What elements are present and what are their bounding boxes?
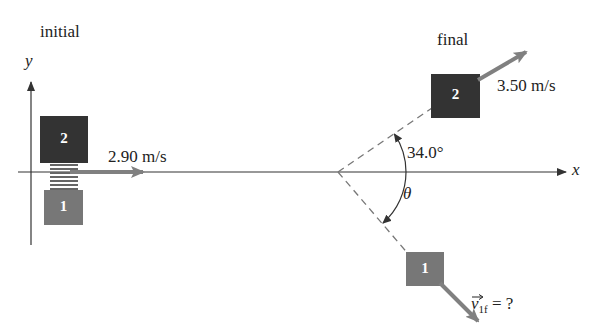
diagram-canvas [0,0,598,335]
block-2-initial-label: 2 [40,130,88,147]
final-speed-block2-label: 3.50 m/s [497,76,556,96]
initial-label: initial [40,22,80,42]
x-axis-label: x [572,160,580,180]
block-2-final-label: 2 [431,86,480,103]
dashed-direction-lines [338,108,432,256]
y-axis-label: y [25,51,33,71]
angle-arc-upper [394,134,406,172]
block-1-initial-label: 1 [44,198,83,215]
v1f-unknown-label: v1f = ? [471,294,513,315]
v1f-subscript: 1f [479,303,488,315]
block-1-final-label: 1 [406,260,444,277]
v1f-equals: = ? [488,294,514,313]
v1f-symbol: v [471,294,479,313]
spring-icon [50,165,78,189]
initial-speed-label: 2.90 m/s [108,147,167,167]
angle-34-label: 34.0° [407,143,444,163]
final-label: final [437,30,468,50]
theta-label: θ [403,184,411,204]
